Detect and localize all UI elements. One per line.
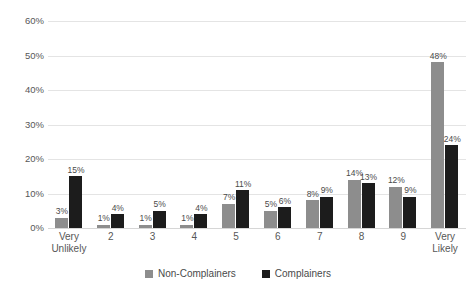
bar-non-complainers[interactable] bbox=[55, 218, 68, 228]
legend-swatch-icon bbox=[145, 270, 153, 278]
bar-group: 48%24% bbox=[424, 21, 466, 228]
y-axis-tick-label: 20% bbox=[2, 154, 44, 164]
x-axis-tick-label: VeryLikely bbox=[417, 231, 473, 255]
bar-non-complainers[interactable] bbox=[180, 225, 193, 228]
y-axis-tick-label: 10% bbox=[2, 189, 44, 199]
y-axis-tick-label: 0% bbox=[2, 223, 44, 233]
bar-value-label: 24% bbox=[437, 135, 467, 144]
bar-value-label: 9% bbox=[312, 186, 342, 195]
chart-legend: Non-ComplainersComplainers bbox=[0, 269, 476, 279]
legend-item[interactable]: Complainers bbox=[262, 269, 331, 279]
bar-value-label: 4% bbox=[103, 204, 133, 213]
y-axis-tick-label: 50% bbox=[2, 51, 44, 61]
bar-chart: 0%10%20%30%40%50%60% 3%15%1%4%1%5%1%4%7%… bbox=[0, 0, 476, 294]
bar-complainers[interactable] bbox=[69, 176, 82, 228]
y-axis-tick-label: 30% bbox=[2, 120, 44, 130]
bar-non-complainers[interactable] bbox=[306, 200, 319, 228]
bar-complainers[interactable] bbox=[153, 211, 166, 228]
legend-item[interactable]: Non-Complainers bbox=[145, 269, 236, 279]
bar-complainers[interactable] bbox=[278, 207, 291, 228]
bar-group: 1%4% bbox=[90, 21, 132, 228]
bar-value-label: 5% bbox=[145, 200, 175, 209]
bar-value-label: 15% bbox=[61, 166, 91, 175]
bar-complainers[interactable] bbox=[362, 183, 375, 228]
bar-value-label: 4% bbox=[186, 204, 216, 213]
bar-group: 1%4% bbox=[173, 21, 215, 228]
gridline-0pct bbox=[48, 228, 466, 229]
x-axis-tick-line: Very bbox=[417, 231, 473, 243]
y-axis-tick-label: 40% bbox=[2, 85, 44, 95]
x-axis-tick-line: Likely bbox=[417, 243, 473, 255]
legend-label: Non-Complainers bbox=[158, 269, 236, 279]
bar-value-label: 13% bbox=[354, 173, 384, 182]
bar-non-complainers[interactable] bbox=[264, 211, 277, 228]
bar-complainers[interactable] bbox=[445, 145, 458, 228]
bar-group: 14%13% bbox=[341, 21, 383, 228]
legend-label: Complainers bbox=[275, 269, 331, 279]
bar-value-label: 12% bbox=[381, 176, 411, 185]
legend-swatch-icon bbox=[262, 270, 270, 278]
bar-non-complainers[interactable] bbox=[431, 62, 444, 228]
x-axis: VeryUnlikely23456789VeryLikely bbox=[48, 231, 466, 265]
bar-group: 3%15% bbox=[48, 21, 90, 228]
y-axis-tick-label: 60% bbox=[2, 16, 44, 26]
y-axis: 0%10%20%30%40%50%60% bbox=[0, 21, 44, 228]
bar-complainers[interactable] bbox=[236, 190, 249, 228]
bar-group: 5%6% bbox=[257, 21, 299, 228]
bar-group: 12%9% bbox=[382, 21, 424, 228]
bar-non-complainers[interactable] bbox=[97, 225, 110, 228]
x-axis-tick-line: Unlikely bbox=[41, 243, 97, 255]
bar-value-label: 48% bbox=[423, 52, 453, 61]
bar-non-complainers[interactable] bbox=[348, 180, 361, 228]
bar-value-label: 11% bbox=[228, 180, 258, 189]
plot-area: 3%15%1%4%1%5%1%4%7%11%5%6%8%9%14%13%12%9… bbox=[48, 21, 466, 228]
bar-non-complainers[interactable] bbox=[222, 204, 235, 228]
bar-non-complainers[interactable] bbox=[139, 225, 152, 228]
bar-group: 7%11% bbox=[215, 21, 257, 228]
bar-complainers[interactable] bbox=[111, 214, 124, 228]
bar-complainers[interactable] bbox=[194, 214, 207, 228]
bar-value-label: 9% bbox=[395, 186, 425, 195]
bar-group: 1%5% bbox=[132, 21, 174, 228]
bar-group: 8%9% bbox=[299, 21, 341, 228]
bar-complainers[interactable] bbox=[403, 197, 416, 228]
bar-complainers[interactable] bbox=[320, 197, 333, 228]
bar-value-label: 6% bbox=[270, 197, 300, 206]
